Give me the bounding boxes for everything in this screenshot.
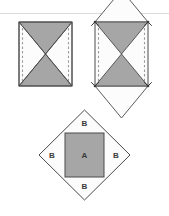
diagram-svg: A B B B B bbox=[0, 0, 169, 216]
folded-up-unshaded-triangle bbox=[95, 0, 148, 22]
figure-canvas: A B B B B bbox=[0, 0, 169, 216]
corner-dot-bottom-left bbox=[94, 85, 97, 88]
panel-folded-out-triangles bbox=[92, 0, 152, 118]
folded-down-unshaded-triangle bbox=[95, 86, 148, 118]
panel-square-with-diagonals bbox=[19, 22, 72, 86]
corner-dot-top-right bbox=[147, 21, 150, 24]
corner-dot-bottom-right bbox=[147, 85, 150, 88]
label-region-a: A bbox=[82, 151, 88, 160]
corner-dot-top-left bbox=[94, 21, 97, 24]
panel-diamond-with-square: A B B B B bbox=[39, 110, 130, 200]
label-region-b-left: B bbox=[49, 151, 55, 160]
label-region-b-right: B bbox=[113, 151, 119, 160]
label-region-b-top: B bbox=[82, 119, 88, 128]
label-region-b-bottom: B bbox=[82, 182, 88, 191]
